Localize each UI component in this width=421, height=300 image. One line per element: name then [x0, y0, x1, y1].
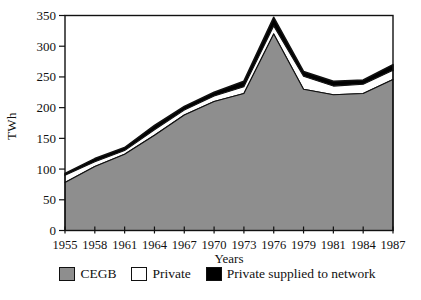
- y-tick-label: 100: [37, 162, 57, 177]
- legend-item-private-network: Private supplied to network: [206, 266, 376, 282]
- x-tick-label: 1987: [381, 238, 406, 252]
- legend-label-cegb: CEGB: [80, 266, 116, 282]
- x-tick-label: 1961: [112, 238, 137, 252]
- legend-label-private: Private: [152, 266, 190, 282]
- x-tick-label: 1973: [231, 238, 256, 252]
- series-area-0: [65, 34, 393, 231]
- x-tick-label: 1976: [261, 238, 286, 252]
- private-network-swatch-icon: [206, 267, 222, 281]
- y-tick-label: 250: [37, 69, 57, 84]
- legend-label-private-network: Private supplied to network: [227, 266, 376, 282]
- x-tick-label: 1981: [321, 238, 346, 252]
- legend: CEGB Private Private supplied to network: [0, 266, 421, 282]
- legend-item-cegb: CEGB: [59, 266, 116, 282]
- x-axis-title: Years: [65, 251, 393, 267]
- stacked-area-chart-figure: 0501001502002503003501955195819611964196…: [0, 0, 421, 300]
- x-tick-label: 1984: [351, 238, 377, 252]
- x-tick-label: 1979: [291, 238, 316, 252]
- y-tick-label: 350: [37, 8, 57, 23]
- x-tick-label: 1958: [82, 238, 107, 252]
- private-swatch-icon: [131, 267, 147, 281]
- x-tick-label: 1967: [172, 238, 197, 252]
- y-tick-label: 200: [37, 100, 57, 115]
- y-axis-title: TWh: [4, 102, 20, 150]
- x-tick-label: 1955: [53, 238, 78, 252]
- x-tick-label: 1970: [202, 238, 227, 252]
- cegb-swatch-icon: [59, 267, 75, 281]
- y-tick-label: 300: [37, 39, 57, 54]
- legend-item-private: Private: [131, 266, 190, 282]
- y-tick-label: 50: [43, 192, 56, 207]
- y-tick-label: 150: [37, 131, 57, 146]
- y-tick-label: 0: [50, 223, 57, 238]
- x-tick-label: 1964: [142, 238, 168, 252]
